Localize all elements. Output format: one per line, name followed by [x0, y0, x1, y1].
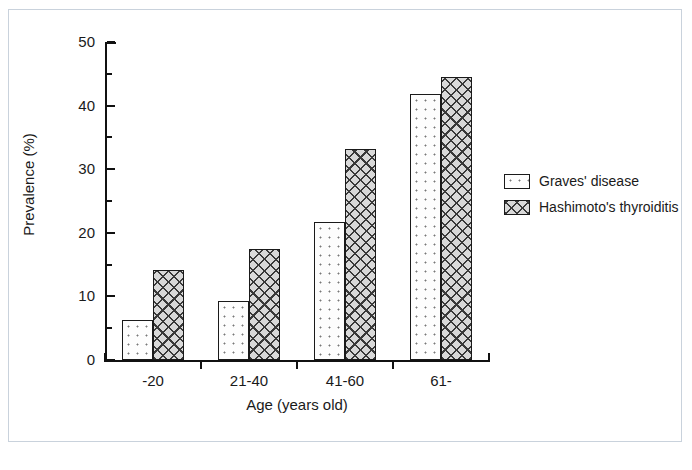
bar-chart: Prevalence (%) Age (years old) 010203040… — [0, 0, 692, 470]
y-tick-major — [107, 105, 115, 107]
y-tick-label: 40 — [55, 98, 95, 113]
bar — [218, 301, 249, 360]
y-tick-label: 50 — [55, 34, 95, 49]
bar — [249, 249, 280, 360]
y-tick-label: 0 — [55, 352, 95, 367]
bar — [441, 77, 472, 360]
y-tick-major — [107, 168, 115, 170]
x-category-label: -20 — [105, 372, 201, 389]
legend-label: Hashimoto's thyroiditis — [539, 199, 679, 215]
y-tick-label: 10 — [55, 288, 95, 303]
x-axis-end-cap — [104, 353, 106, 362]
bar — [314, 222, 345, 360]
legend-item: Graves' disease — [504, 168, 679, 194]
bar — [410, 94, 441, 360]
y-tick-minor — [107, 73, 112, 75]
x-axis-title: Age (years old) — [105, 396, 489, 413]
y-tick-label: 20 — [55, 225, 95, 240]
chart-legend: Graves' diseaseHashimoto's thyroiditis — [504, 168, 679, 220]
legend-swatch-icon — [504, 174, 530, 189]
legend-swatch-icon — [504, 200, 530, 215]
x-category-label: 61- — [393, 372, 489, 389]
x-tick — [296, 362, 298, 369]
y-tick-minor — [107, 327, 112, 329]
x-category-label: 21-40 — [201, 372, 297, 389]
x-tick — [392, 362, 394, 369]
y-tick-major — [107, 359, 115, 361]
y-tick-minor — [107, 136, 112, 138]
x-category-label: 41-60 — [297, 372, 393, 389]
y-tick-major — [107, 41, 115, 43]
bar — [345, 149, 376, 360]
y-axis-title: Prevalence (%) — [20, 95, 37, 275]
y-tick-major — [107, 232, 115, 234]
bar — [122, 320, 153, 360]
y-tick-minor — [107, 200, 112, 202]
y-tick-label: 30 — [55, 161, 95, 176]
legend-label: Graves' disease — [539, 173, 639, 189]
x-axis-end-cap — [488, 353, 490, 362]
y-tick-major — [107, 295, 115, 297]
plot-area: 01020304050 -2021-4041-6061- — [105, 42, 489, 360]
bar — [153, 270, 184, 360]
y-tick-minor — [107, 264, 112, 266]
legend-item: Hashimoto's thyroiditis — [504, 194, 679, 220]
x-tick — [200, 362, 202, 369]
